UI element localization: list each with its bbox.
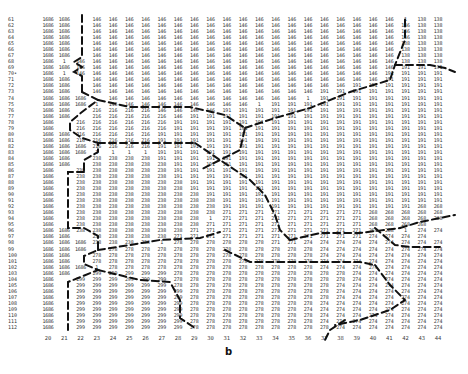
boundary-238-191 [195,143,290,240]
boundary-278-274-lower [325,320,345,340]
boundary-271-278 [225,250,375,265]
boundary-1686-146 [74,15,82,92]
boundary-1686-238 [68,172,98,330]
boundary-238-278 [98,232,220,250]
boundary-146-191 [245,17,405,128]
panel-label: b [225,346,232,357]
region-boundaries [0,0,468,374]
boundary-299-278 [98,270,195,328]
boundary-268-274 [375,228,440,247]
boundary-146-216 [98,100,245,170]
boundary-1686-lower [70,92,98,172]
boundary-191-271 [290,228,400,240]
boundary-278-274 [335,265,405,325]
boundary-138 [395,65,455,72]
boundary-191-268 [400,215,455,228]
